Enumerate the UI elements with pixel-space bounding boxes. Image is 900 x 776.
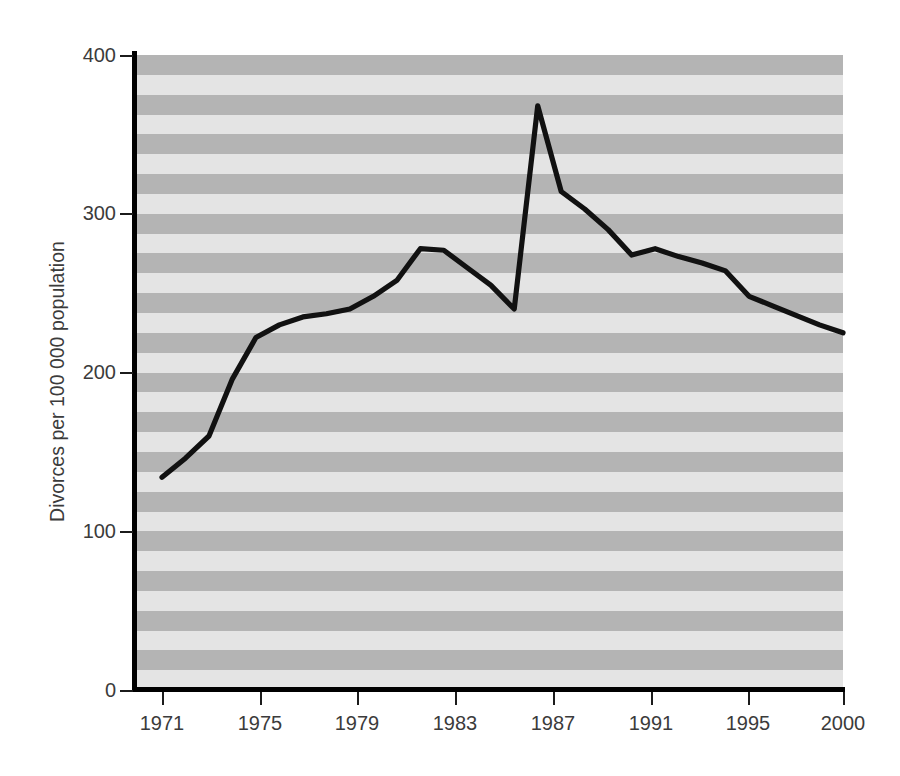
x-tick-mark [260, 692, 262, 705]
x-tick-mark [455, 692, 457, 705]
y-tick-label: 300 [56, 203, 116, 223]
y-tick-mark [120, 531, 133, 533]
x-tick-mark [651, 692, 653, 705]
cut-off-caption-sliver [300, 0, 860, 5]
y-tick-mark [120, 213, 133, 215]
y-tick-mark [120, 372, 133, 374]
x-tick-mark [843, 692, 845, 705]
x-tick-label: 1983 [415, 712, 495, 734]
divorce-rate-line-chart: Divorces per 100 000 population 400 300 … [0, 0, 900, 776]
y-tick-label-wrap: 0 [38, 680, 116, 700]
horizontal-band-grid [135, 55, 843, 690]
x-tick-label: 2000 [803, 712, 883, 734]
y-tick-label: 400 [56, 45, 116, 65]
plot-area [135, 55, 843, 690]
x-tick-label: 1975 [220, 712, 300, 734]
x-tick-mark [162, 692, 164, 705]
x-tick-label: 1991 [611, 712, 691, 734]
x-tick-mark [357, 692, 359, 705]
x-tick-label: 1987 [513, 712, 593, 734]
y-tick-label-wrap: 300 [38, 203, 116, 223]
y-tick-label-wrap: 200 [38, 362, 116, 382]
x-axis-spine [133, 687, 845, 692]
y-tick-label: 0 [56, 680, 116, 700]
y-tick-label: 100 [56, 521, 116, 541]
y-tick-label-wrap: 400 [38, 45, 116, 65]
x-tick-mark [553, 692, 555, 705]
x-tick-label: 1979 [317, 712, 397, 734]
y-tick-label: 200 [56, 362, 116, 382]
y-tick-label-wrap: 100 [38, 521, 116, 541]
x-tick-label: 1995 [708, 712, 788, 734]
x-tick-mark [748, 692, 750, 705]
x-tick-label: 1971 [122, 712, 202, 734]
y-tick-mark [120, 690, 133, 692]
y-tick-mark [120, 55, 133, 57]
